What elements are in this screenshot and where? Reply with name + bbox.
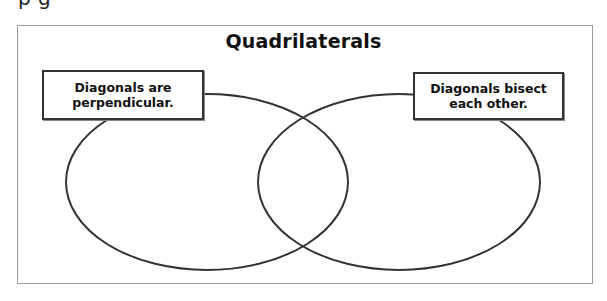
- left-set-label-line1: Diagonals are: [74, 80, 171, 95]
- left-set-label: Diagonals are perpendicular.: [42, 70, 204, 120]
- left-set-label-line2: perpendicular.: [72, 95, 173, 110]
- right-set-label-line1: Diagonals bisect: [430, 81, 547, 96]
- left-set-ellipse: [66, 94, 348, 270]
- right-set-label: Diagonals bisect each other.: [413, 72, 564, 120]
- right-set-ellipse: [258, 94, 540, 270]
- right-set-label-line2: each other.: [449, 96, 528, 111]
- venn-diagram: [0, 0, 607, 301]
